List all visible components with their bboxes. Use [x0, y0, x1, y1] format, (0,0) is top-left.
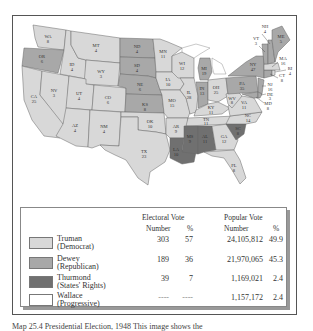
svg-text:14: 14 — [246, 118, 251, 123]
svg-text:11: 11 — [204, 121, 209, 126]
svg-text:47: 47 — [251, 67, 256, 72]
ev-number: 303 — [145, 236, 169, 244]
swatch-dewey — [29, 257, 53, 269]
pv-number: 1,169,021 — [211, 275, 263, 283]
svg-text:11: 11 — [242, 105, 247, 110]
svg-text:12: 12 — [180, 66, 185, 71]
svg-text:23: 23 — [142, 154, 147, 159]
header-electoral-vote: Electoral Vote — [142, 214, 184, 222]
candidate-party: (Republican) — [57, 263, 99, 271]
pv-number: 21,970,065 — [211, 256, 263, 264]
ev-pct: ---- — [177, 294, 193, 302]
svg-text:13: 13 — [200, 91, 205, 96]
svg-text:19: 19 — [202, 71, 207, 76]
ev-number: 189 — [145, 256, 169, 264]
header-ev-pct: % — [187, 225, 193, 233]
pv-pct: 45.3 — [265, 256, 283, 264]
header-pv-pct: % — [273, 225, 279, 233]
state-NY — [228, 56, 264, 78]
swatch-truman — [29, 237, 53, 249]
pv-number: 24,105,812 — [211, 236, 263, 244]
legend-table: Electoral Vote Popular Vote Number % Num… — [20, 207, 287, 307]
svg-text:10: 10 — [148, 124, 153, 129]
svg-text:11: 11 — [203, 139, 208, 144]
svg-text:28: 28 — [187, 95, 192, 100]
state-CT — [264, 70, 272, 78]
header-pv-number: Number — [224, 225, 249, 233]
candidate-party: (Progressive) — [57, 300, 100, 308]
swatch-thurmond — [29, 276, 53, 288]
ev-pct: 57 — [179, 236, 193, 244]
svg-text:10: 10 — [174, 152, 179, 157]
header-popular-vote: Popular Vote — [224, 214, 263, 222]
svg-text:8: 8 — [281, 78, 284, 83]
ev-number: 39 — [145, 275, 169, 283]
pv-pct: 49.9 — [265, 236, 283, 244]
map-caption: Map 25.4 Presidential Election, 1948 Thi… — [12, 322, 203, 331]
svg-text:8: 8 — [267, 106, 270, 111]
pv-pct: 2.4 — [265, 294, 283, 302]
svg-text:4: 4 — [264, 29, 267, 34]
pv-number: 1,157,172 — [211, 294, 263, 302]
svg-text:3: 3 — [255, 41, 258, 46]
pv-pct: 2.4 — [265, 275, 283, 283]
svg-text:25: 25 — [214, 90, 219, 95]
svg-text:10: 10 — [166, 82, 171, 87]
candidate-party: (States' Rights) — [57, 282, 106, 290]
svg-text:11: 11 — [209, 110, 214, 115]
svg-text:15: 15 — [170, 103, 175, 108]
svg-text:4: 4 — [289, 71, 292, 76]
state-shapes — [22, 25, 290, 185]
ev-pct: 36 — [179, 256, 193, 264]
candidate-party: (Democrat) — [57, 243, 94, 251]
header-ev-number: Number — [146, 225, 171, 233]
svg-text:25: 25 — [32, 99, 37, 104]
svg-text:35: 35 — [240, 86, 245, 91]
state-FL — [204, 150, 246, 184]
swatch-wallace — [29, 294, 53, 306]
ev-number: ---- — [145, 294, 169, 302]
svg-text:16: 16 — [281, 61, 286, 66]
svg-text:11: 11 — [161, 54, 166, 59]
svg-text:12: 12 — [222, 139, 227, 144]
ev-pct: 7 — [179, 275, 193, 283]
us-election-map: WA8 OR6 CA25 ID4 NV3 MT4 WY3 UT4 CO6 AZ4… — [0, 0, 313, 210]
